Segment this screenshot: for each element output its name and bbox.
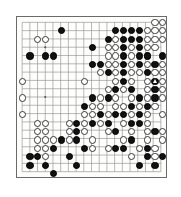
white-stone[interactable] xyxy=(105,86,112,93)
white-stone[interactable] xyxy=(34,128,41,135)
white-stone[interactable] xyxy=(136,145,143,152)
black-stone[interactable] xyxy=(144,145,151,152)
black-stone[interactable] xyxy=(73,136,80,143)
black-stone[interactable] xyxy=(151,128,158,135)
white-stone[interactable] xyxy=(105,61,112,68)
black-stone[interactable] xyxy=(120,111,127,118)
white-stone[interactable] xyxy=(159,86,166,93)
white-stone[interactable] xyxy=(89,136,96,143)
black-stone[interactable] xyxy=(136,94,143,101)
black-stone[interactable] xyxy=(73,120,80,127)
black-stone[interactable] xyxy=(136,52,143,59)
white-stone[interactable] xyxy=(81,78,88,85)
black-stone[interactable] xyxy=(89,94,96,101)
white-stone[interactable] xyxy=(120,120,127,127)
white-stone[interactable] xyxy=(97,120,104,127)
black-stone[interactable] xyxy=(73,128,80,135)
white-stone[interactable] xyxy=(42,145,49,152)
white-stone[interactable] xyxy=(112,36,119,43)
white-stone[interactable] xyxy=(159,27,166,34)
white-stone[interactable] xyxy=(144,94,151,101)
white-stone[interactable] xyxy=(42,120,49,127)
white-stone[interactable] xyxy=(42,128,49,135)
white-stone[interactable] xyxy=(151,27,158,34)
black-stone[interactable] xyxy=(151,162,158,169)
black-stone[interactable] xyxy=(105,69,112,76)
white-stone[interactable] xyxy=(159,69,166,76)
white-stone[interactable] xyxy=(112,78,119,85)
black-stone[interactable] xyxy=(58,136,65,143)
black-stone[interactable] xyxy=(112,27,119,34)
white-stone[interactable] xyxy=(112,61,119,68)
black-stone[interactable] xyxy=(58,27,65,34)
white-stone[interactable] xyxy=(128,128,135,135)
go-board[interactable] xyxy=(16,16,167,178)
black-stone[interactable] xyxy=(97,111,104,118)
white-stone[interactable] xyxy=(97,69,104,76)
black-stone[interactable] xyxy=(136,61,143,68)
white-stone[interactable] xyxy=(81,120,88,127)
white-stone[interactable] xyxy=(151,44,158,51)
white-stone[interactable] xyxy=(128,94,135,101)
black-stone[interactable] xyxy=(112,128,119,135)
black-stone[interactable] xyxy=(81,103,88,110)
black-stone[interactable] xyxy=(26,162,33,169)
white-stone[interactable] xyxy=(34,36,41,43)
black-stone[interactable] xyxy=(120,52,127,59)
white-stone[interactable] xyxy=(128,153,135,160)
white-stone[interactable] xyxy=(34,120,41,127)
black-stone[interactable] xyxy=(144,52,151,59)
black-stone[interactable] xyxy=(128,136,135,143)
black-stone[interactable] xyxy=(128,120,135,127)
white-stone[interactable] xyxy=(159,111,166,118)
white-stone[interactable] xyxy=(144,78,151,85)
white-stone[interactable] xyxy=(128,69,135,76)
black-stone[interactable] xyxy=(26,153,33,160)
white-stone[interactable] xyxy=(144,128,151,135)
black-stone[interactable] xyxy=(136,120,143,127)
white-stone[interactable] xyxy=(144,136,151,143)
black-stone[interactable] xyxy=(89,120,96,127)
white-stone[interactable] xyxy=(42,36,49,43)
black-stone[interactable] xyxy=(120,145,127,152)
white-stone[interactable] xyxy=(151,145,158,152)
black-stone[interactable] xyxy=(136,162,143,169)
white-stone[interactable] xyxy=(105,145,112,152)
black-stone[interactable] xyxy=(105,120,112,127)
black-stone[interactable] xyxy=(73,162,80,169)
black-stone[interactable] xyxy=(42,162,49,169)
white-stone[interactable] xyxy=(105,44,112,51)
white-stone[interactable] xyxy=(112,103,119,110)
white-stone[interactable] xyxy=(34,145,41,152)
black-stone[interactable] xyxy=(26,52,33,59)
stone-layer[interactable] xyxy=(17,17,166,177)
black-stone[interactable] xyxy=(89,61,96,68)
white-stone[interactable] xyxy=(112,94,119,101)
white-stone[interactable] xyxy=(159,94,166,101)
black-stone[interactable] xyxy=(34,153,41,160)
black-stone[interactable] xyxy=(50,170,57,177)
black-stone[interactable] xyxy=(128,36,135,43)
white-stone[interactable] xyxy=(144,27,151,34)
black-stone[interactable] xyxy=(120,44,127,51)
white-stone[interactable] xyxy=(89,111,96,118)
white-stone[interactable] xyxy=(128,44,135,51)
black-stone[interactable] xyxy=(120,61,127,68)
black-stone[interactable] xyxy=(128,86,135,93)
black-stone[interactable] xyxy=(112,145,119,152)
black-stone[interactable] xyxy=(50,52,57,59)
black-stone[interactable] xyxy=(42,52,49,59)
white-stone[interactable] xyxy=(159,128,166,135)
black-stone[interactable] xyxy=(136,111,143,118)
white-stone[interactable] xyxy=(151,103,158,110)
black-stone[interactable] xyxy=(159,153,166,160)
white-stone[interactable] xyxy=(112,44,119,51)
white-stone[interactable] xyxy=(128,111,135,118)
white-stone[interactable] xyxy=(105,52,112,59)
white-stone[interactable] xyxy=(19,78,26,85)
white-stone[interactable] xyxy=(50,136,57,143)
black-stone[interactable] xyxy=(136,27,143,34)
white-stone[interactable] xyxy=(144,61,151,68)
black-stone[interactable] xyxy=(151,86,158,93)
white-stone[interactable] xyxy=(128,61,135,68)
